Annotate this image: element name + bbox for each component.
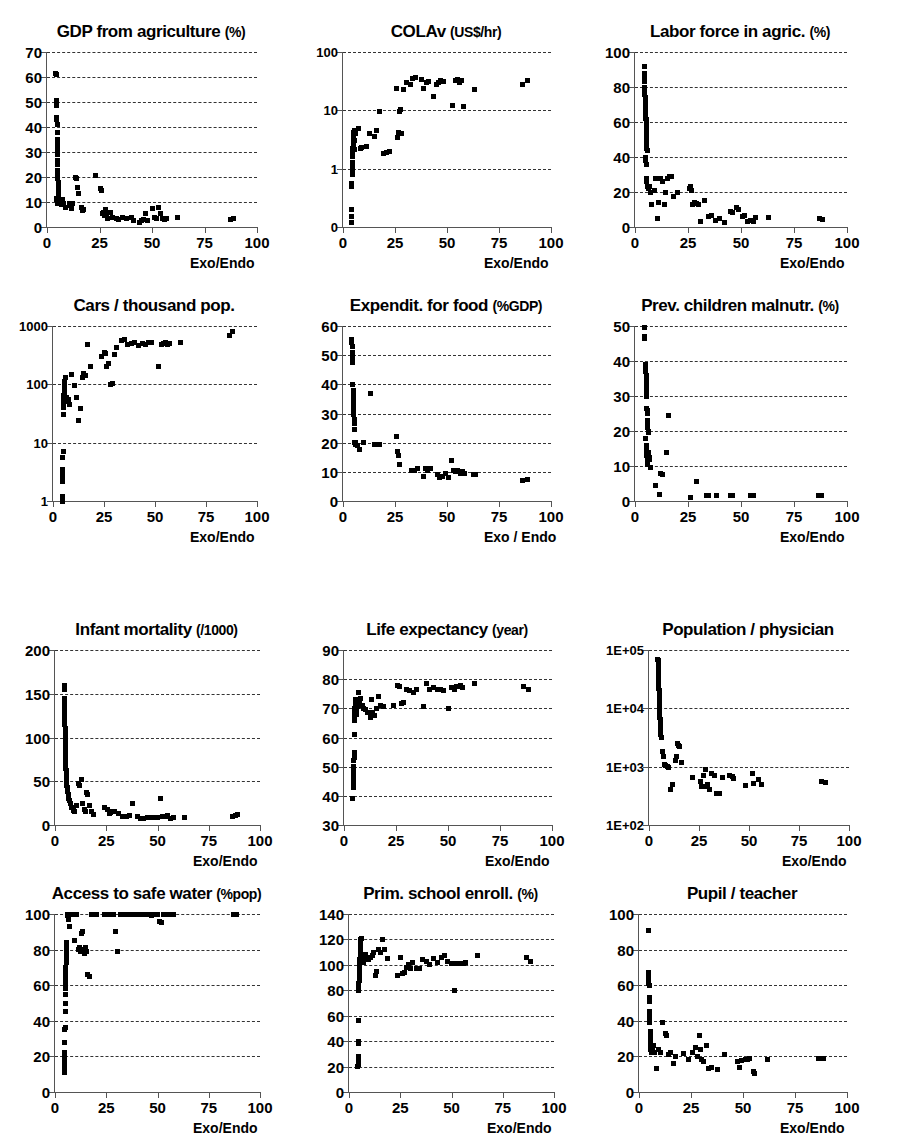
gridline [47,77,257,78]
gridline [55,650,260,651]
plot-area-children-malnutrition: 010203040500255075100 [634,326,847,502]
gridline [635,52,847,53]
x-tick-label: 100 [541,1099,566,1116]
x-tick-label: 25 [98,832,115,849]
data-point [414,687,419,692]
data-point [69,206,74,211]
y-tick-label: 30 [613,388,635,405]
data-point [156,205,161,210]
data-point [655,216,660,221]
data-point [689,188,694,193]
x-axis-label-expenditure-food: Exo / Endo [484,529,556,545]
data-point [167,341,172,346]
x-tick-label: 75 [200,832,217,849]
data-point [230,329,235,334]
y-tick-label: 50 [33,773,55,790]
x-tick-label: 100 [538,234,563,251]
gridline [344,738,552,739]
y-tick-label: 70 [25,44,47,61]
x-tick-label: 50 [735,1099,752,1116]
x-tick-mark [400,1092,401,1098]
x-tick-label: 25 [680,234,697,251]
data-point [87,974,92,979]
x-axis-label-access-safe-water: Exo/Endo [193,1120,258,1136]
x-axis-label-gdp-agriculture: Exo/Endo [190,255,255,271]
data-point [653,483,658,488]
data-point [385,956,390,961]
x-tick-label: 0 [43,234,51,251]
x-tick-label: 100 [247,832,272,849]
data-point [421,474,426,479]
x-tick-mark [205,227,206,233]
data-point [374,969,379,974]
y-tick-label: 40 [33,1012,55,1029]
x-tick-label: 25 [91,234,108,251]
data-point [690,775,695,780]
data-point [658,1050,663,1055]
y-tick-label: 20 [327,1058,349,1075]
x-tick-mark [395,501,396,507]
data-point [352,755,357,760]
gridline [649,767,849,768]
gridline [649,708,849,709]
x-tick-label: 0 [51,832,59,849]
y-tick-label: 150 [25,685,55,702]
data-point [459,78,464,83]
data-point [235,812,240,817]
data-point [753,215,758,220]
x-tick-mark [55,825,56,831]
data-point [106,361,111,366]
data-point [63,979,68,984]
x-tick-label: 25 [387,508,404,525]
y-tick-label: 40 [617,1012,639,1029]
x-tick-label: 0 [49,508,57,525]
data-point [62,687,67,692]
x-tick-mark [551,501,552,507]
data-point [352,750,357,755]
data-point [352,427,357,432]
data-point [460,685,465,690]
x-tick-mark [344,825,345,831]
data-point [394,434,399,439]
data-point [155,912,160,917]
x-tick-mark [448,825,449,831]
data-point [666,413,671,418]
data-point [79,777,84,782]
data-point [72,809,77,814]
gridline [343,414,551,415]
y-tick-label: 1E+05 [606,643,649,658]
data-point [54,103,59,108]
x-tick-mark [260,825,261,831]
x-tick-label: 50 [443,1099,460,1116]
data-point [349,207,354,212]
x-tick-mark [847,227,848,233]
y-tick-label: 20 [613,423,635,440]
panel-title-unit: (%) [517,886,538,902]
data-point [380,937,385,942]
gridline [343,384,551,385]
data-point [112,352,117,357]
data-point [750,771,755,776]
gridline [349,1041,554,1042]
gridline [47,52,257,53]
data-point [60,455,65,460]
panel-title-pupil-teacher: Pupil / teacher [610,884,874,904]
data-point [350,154,355,159]
data-point [715,1067,720,1072]
x-tick-mark [699,825,700,831]
data-point [664,450,669,455]
x-tick-mark [639,1092,640,1098]
y-tick-label: 40 [25,119,47,136]
y-tick-label: 40 [613,353,635,370]
data-point [231,216,236,221]
x-tick-label: 50 [149,1099,166,1116]
data-point [396,453,401,458]
panel-title-main: Access to safe water [52,884,212,903]
data-point [150,206,155,211]
panel-title-unit: (%) [225,24,246,40]
gridline [349,914,554,915]
x-tick-label: 25 [392,1099,409,1116]
x-tick-label: 0 [645,832,653,849]
data-point [364,144,369,149]
data-point [426,79,431,84]
